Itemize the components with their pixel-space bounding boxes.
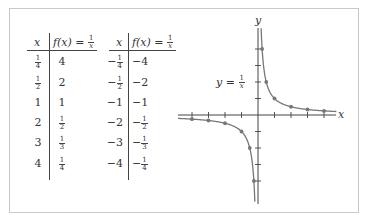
data-point	[322, 109, 326, 113]
table-cell-fx: −13	[132, 136, 148, 151]
table-cell-fx: 4	[59, 56, 66, 68]
table-cell-x: −14	[107, 55, 123, 70]
table-cell-fx: −14	[132, 157, 148, 172]
table-cell-fx: −2	[132, 77, 148, 89]
data-point	[260, 47, 264, 51]
table-cell-x: −3	[107, 137, 123, 149]
table-cell-x: −1	[107, 97, 123, 109]
table-cell-fx: 14	[59, 157, 65, 172]
table-cell-x: 1	[35, 97, 42, 109]
table-cell-fx: 12	[59, 116, 65, 131]
value-text: −4	[107, 157, 123, 170]
value-text: −2	[107, 116, 123, 129]
table-cell-x: 14	[35, 55, 41, 70]
value-text: −1	[107, 96, 123, 109]
value-text: −4	[132, 55, 148, 68]
value-text: −1	[132, 96, 148, 109]
table-cell-x: 4	[35, 158, 42, 170]
fraction: 14	[117, 55, 123, 70]
data-point	[240, 130, 244, 134]
table-cell-fx: −12	[132, 116, 148, 131]
curve-positive-branch	[261, 28, 336, 111]
data-point	[273, 97, 277, 101]
minus-sign: −	[132, 137, 141, 149]
y-axis-label: y	[255, 15, 261, 27]
table-column-rule	[49, 33, 50, 180]
minus-sign: −	[132, 158, 141, 170]
value-text: 2	[35, 116, 42, 129]
table-cell-x: −2	[107, 117, 123, 129]
value-text: 1	[59, 96, 66, 109]
data-point	[223, 121, 227, 125]
fraction: 14	[59, 157, 65, 172]
curve-negative-branch	[178, 118, 255, 201]
data-point	[306, 108, 310, 112]
table-cell-x: 12	[35, 76, 41, 91]
table-header-rule	[109, 50, 176, 51]
data-point	[264, 80, 268, 84]
value-text: 4	[35, 157, 42, 170]
value-text: 2	[59, 76, 66, 89]
value-text: −2	[132, 76, 148, 89]
table-cell-x: −12	[107, 76, 123, 91]
table-header-x: x	[34, 37, 40, 49]
fraction: 13	[59, 136, 65, 151]
table-cell-fx: −1	[132, 97, 148, 109]
fraction: 13	[141, 136, 147, 151]
fraction: 14	[35, 55, 41, 70]
fraction: 12	[141, 116, 147, 131]
data-point	[252, 179, 256, 183]
table-cell-fx: 2	[59, 77, 66, 89]
data-point	[289, 105, 293, 109]
minus-sign: −	[132, 117, 141, 129]
value-text: 3	[35, 136, 42, 149]
table-cell-fx: 13	[59, 136, 65, 151]
data-point	[248, 146, 252, 150]
table-cell-fx: −4	[132, 56, 148, 68]
minus-sign: −	[107, 56, 116, 68]
value-text: −3	[107, 136, 123, 149]
curve-label-fraction: 1 x	[238, 75, 244, 90]
value-text: 4	[59, 55, 66, 68]
data-point	[207, 119, 211, 123]
data-point	[190, 117, 194, 121]
x-axis-label: x	[338, 109, 344, 121]
fraction: 12	[35, 76, 41, 91]
table-header-x: x	[116, 37, 122, 49]
table-cell-fx: 1	[59, 97, 66, 109]
value-text: 1	[35, 96, 42, 109]
table-header-rule	[27, 50, 97, 51]
curve-label-text: y =	[216, 76, 235, 89]
fraction: 12	[117, 76, 123, 91]
table-cell-x: 2	[35, 117, 42, 129]
table-cell-x: −4	[107, 158, 123, 170]
fraction: 12	[59, 116, 65, 131]
table-header-fx: f(x) = 1x	[53, 35, 95, 50]
reciprocal-function-graph	[0, 0, 373, 224]
fraction: 14	[141, 157, 147, 172]
table-cell-x: 3	[35, 137, 42, 149]
curve-label: y = 1 x	[216, 75, 245, 90]
table-column-rule	[128, 33, 129, 180]
table-header-fx: f(x) = 1x	[132, 35, 174, 50]
minus-sign: −	[107, 77, 116, 89]
